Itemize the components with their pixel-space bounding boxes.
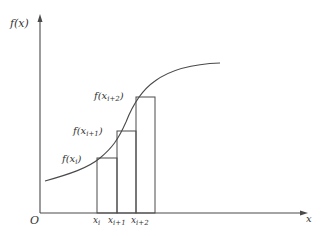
y-axis-label: f(x) <box>9 17 29 30</box>
origin-label: O <box>30 214 39 227</box>
axes <box>38 14 309 216</box>
rectangle-i-plus-1 <box>117 131 136 213</box>
rectangles <box>97 97 155 213</box>
tick-xi2: xi+2 <box>131 215 149 227</box>
label-f-xi2: f(xi+2) <box>93 90 124 103</box>
y-axis-arrow-icon <box>38 14 43 22</box>
label-f-xi: f(xi) <box>61 153 82 166</box>
tick-xi: xi <box>93 215 100 227</box>
x-axis-label: x <box>306 213 312 224</box>
label-f-xi1: f(xi+1) <box>72 125 103 138</box>
riemann-sum-diagram: f(x) x O f(xi) f(xi+1) f(xi+2) xi xi+1 x… <box>0 0 322 236</box>
tick-xi1: xi+1 <box>108 215 126 227</box>
rectangle-i <box>97 158 117 213</box>
rectangle-i-plus-2 <box>136 97 155 213</box>
